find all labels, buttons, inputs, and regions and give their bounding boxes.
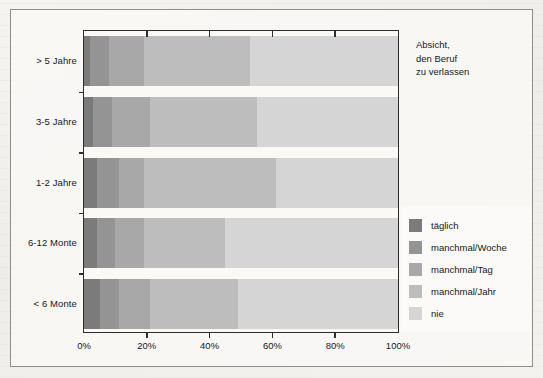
x-axis-tick-label: 100% — [386, 340, 410, 351]
bar-row[interactable]: 1-2 Jahre — [84, 158, 398, 208]
legend-swatch-icon — [409, 219, 422, 232]
legend-label: manchmal/Woche — [431, 242, 507, 253]
y-axis-category-label: 3-5 Jahre — [36, 116, 77, 127]
bar-segment[interactable] — [276, 158, 398, 208]
bar-segment[interactable] — [100, 279, 119, 329]
x-axis-tick — [334, 332, 336, 338]
bar-segment[interactable] — [115, 218, 143, 268]
bar-segment[interactable] — [150, 97, 257, 147]
bar-segment[interactable] — [90, 36, 109, 86]
annotation-line-1: Absicht, — [416, 38, 469, 52]
bar-segment[interactable] — [97, 218, 116, 268]
legend-label: manchmal/Jahr — [431, 286, 496, 297]
bar-segment[interactable] — [144, 36, 251, 86]
bar-row[interactable]: 3-5 Jahre — [84, 97, 398, 147]
chart-annotation: Absicht, den Beruf zu verlassen — [416, 38, 469, 79]
plot-area: > 5 Jahre3-5 Jahre1-2 Jahre6-12 Monte< 6… — [83, 30, 399, 333]
bar-row[interactable]: > 5 Jahre — [84, 36, 398, 86]
bar-segment[interactable] — [97, 158, 119, 208]
x-axis-tick-top — [272, 31, 274, 37]
x-axis-tick-top — [209, 31, 211, 37]
x-axis-tick-top — [334, 31, 336, 37]
bar-segment[interactable] — [144, 158, 276, 208]
legend-swatch-icon — [409, 285, 422, 298]
y-axis-tick — [79, 273, 84, 275]
bar-segment[interactable] — [84, 158, 97, 208]
y-axis-category-label: 1-2 Jahre — [36, 177, 77, 188]
bar-row[interactable]: 6-12 Monte — [84, 218, 398, 268]
x-axis-tick-label: 60% — [263, 340, 282, 351]
legend-item[interactable]: manchmal/Jahr — [409, 280, 525, 302]
bar-segment[interactable] — [119, 279, 150, 329]
y-axis-tick — [79, 92, 84, 94]
x-axis-tick-label: 80% — [326, 340, 345, 351]
x-axis-tick-top — [146, 31, 148, 37]
legend-swatch-icon — [409, 263, 422, 276]
legend-item[interactable]: manchmal/Woche — [409, 236, 525, 258]
legend-swatch-icon — [409, 307, 422, 320]
bar-segment[interactable] — [238, 279, 398, 329]
bar-segment[interactable] — [250, 36, 398, 86]
x-axis-tick — [146, 332, 148, 338]
legend-item[interactable]: nie — [409, 302, 525, 324]
bar-segment[interactable] — [119, 158, 144, 208]
bar-segment[interactable] — [84, 97, 93, 147]
bar-row[interactable]: < 6 Monte — [84, 279, 398, 329]
x-axis-tick — [209, 332, 211, 338]
x-axis-tick-label: 20% — [137, 340, 156, 351]
legend-label: nie — [431, 308, 444, 319]
bar-segment[interactable] — [257, 97, 398, 147]
y-axis-category-label: > 5 Jahre — [36, 55, 77, 66]
chart-figure: > 5 Jahre3-5 Jahre1-2 Jahre6-12 Monte< 6… — [10, 9, 533, 367]
bar-segment[interactable] — [84, 279, 100, 329]
chart-legend: täglichmanchmal/Wochemanchmal/Tagmanchma… — [401, 206, 531, 332]
bar-segment[interactable] — [93, 97, 112, 147]
y-axis-tick — [79, 213, 84, 215]
bar-segment[interactable] — [144, 218, 226, 268]
legend-swatch-icon — [409, 241, 422, 254]
annotation-line-2: den Beruf — [416, 52, 469, 66]
bar-segment[interactable] — [150, 279, 238, 329]
bar-segment[interactable] — [84, 218, 97, 268]
bar-segment[interactable] — [112, 97, 150, 147]
legend-label: täglich — [431, 220, 458, 231]
x-axis-tick-label: 0% — [77, 340, 91, 351]
x-axis-tick — [272, 332, 274, 338]
bar-segment[interactable] — [225, 218, 398, 268]
legend-item[interactable]: täglich — [409, 214, 525, 236]
legend-item[interactable]: manchmal/Tag — [409, 258, 525, 280]
annotation-line-3: zu verlassen — [416, 65, 469, 79]
x-axis-tick-label: 40% — [200, 340, 219, 351]
bar-segment[interactable] — [109, 36, 144, 86]
y-axis-category-label: < 6 Monte — [34, 298, 77, 309]
y-axis-category-label: 6-12 Monte — [28, 237, 77, 248]
y-axis-tick — [79, 152, 84, 154]
legend-label: manchmal/Tag — [431, 264, 493, 275]
